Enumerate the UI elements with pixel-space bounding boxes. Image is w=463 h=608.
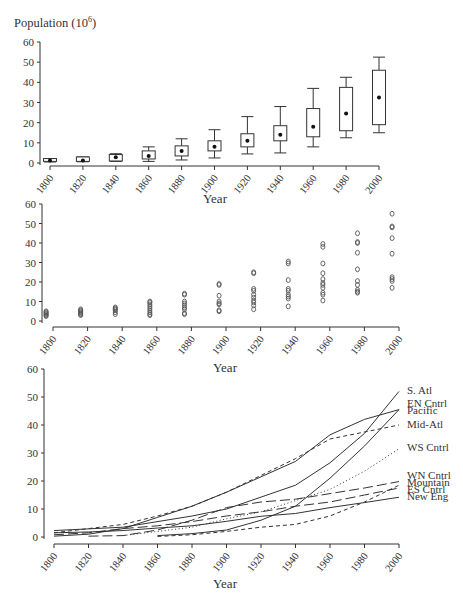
y-tick-label: 20 bbox=[27, 475, 39, 487]
scatter-point bbox=[321, 261, 325, 266]
y-tick-label: 0 bbox=[33, 531, 39, 543]
x-tick-label: 2000 bbox=[363, 172, 385, 195]
box-iqr bbox=[340, 87, 353, 130]
y-tick-label: 40 bbox=[25, 237, 37, 249]
mean-dot bbox=[278, 133, 282, 137]
y-tick-label: 50 bbox=[25, 218, 37, 230]
scatter-point bbox=[355, 267, 359, 272]
y-tick-label: 10 bbox=[27, 503, 39, 515]
y-tick-label: 10 bbox=[23, 137, 35, 149]
series-line-mountain bbox=[158, 485, 400, 536]
x-tick-label: 1860 bbox=[141, 333, 163, 356]
y-tick-label: 20 bbox=[23, 117, 35, 129]
x-tick-label: 1920 bbox=[245, 550, 267, 573]
y-tick-label: 30 bbox=[23, 97, 35, 109]
y-tick-label: 50 bbox=[23, 56, 35, 68]
x-tick-label: 1860 bbox=[133, 172, 155, 195]
scatter-point bbox=[321, 242, 325, 247]
series-line-s-atl bbox=[54, 391, 399, 530]
mean-dot bbox=[81, 158, 85, 162]
y-tick-label: 0 bbox=[31, 315, 37, 327]
series-line-ws-cntrl bbox=[123, 449, 399, 536]
box-1800 bbox=[44, 159, 57, 163]
scatter-point bbox=[321, 298, 325, 303]
x-tick-label: 1980 bbox=[330, 172, 352, 195]
x-tick-label: 1820 bbox=[72, 333, 94, 356]
x-tick-label: 2000 bbox=[383, 333, 405, 356]
scatter-point bbox=[321, 271, 325, 276]
figure-canvas: 0102030405060180018201840186018801900192… bbox=[0, 0, 463, 608]
series-line-mid-atl bbox=[54, 425, 399, 533]
box-2000 bbox=[373, 57, 386, 133]
scatter-point bbox=[355, 250, 359, 255]
y-tick-label: 30 bbox=[25, 257, 37, 269]
x-tick-label: 1980 bbox=[348, 333, 370, 356]
x-tick-label: 1980 bbox=[348, 550, 370, 573]
series-line-pacific bbox=[158, 410, 400, 536]
scatter-point bbox=[286, 304, 290, 309]
series-label: S. Atl bbox=[407, 384, 432, 396]
mean-dot bbox=[114, 155, 118, 159]
box-1900 bbox=[208, 130, 221, 158]
mean-dot bbox=[180, 149, 184, 153]
scatter-chart: 0102030405060180018201840186018801900192… bbox=[25, 198, 405, 375]
y-tick-label: 50 bbox=[27, 391, 39, 403]
box-1940 bbox=[274, 107, 287, 153]
y-tick-label: 40 bbox=[27, 419, 39, 431]
scatter-point bbox=[390, 236, 394, 241]
box-1980 bbox=[340, 77, 353, 138]
series-line-new-eng bbox=[54, 497, 399, 533]
x-tick-label: 1840 bbox=[100, 172, 122, 195]
y-tick-label: 30 bbox=[27, 447, 39, 459]
x-tick-label: 1880 bbox=[176, 550, 198, 573]
x-tick-label: 1800 bbox=[34, 172, 56, 195]
x-axis-label: Year bbox=[213, 576, 238, 591]
mean-dot bbox=[213, 145, 217, 149]
y-tick-label: 0 bbox=[29, 157, 35, 169]
line-chart: 0102030405060180018201840186018801900192… bbox=[27, 363, 451, 591]
x-tick-label: 1940 bbox=[279, 333, 301, 356]
box-1960 bbox=[307, 88, 320, 146]
series-line-wn-cntrl bbox=[89, 482, 400, 537]
x-tick-label: 1880 bbox=[166, 172, 188, 195]
mean-dot bbox=[48, 159, 52, 163]
x-tick-label: 1820 bbox=[67, 172, 89, 195]
y-tick-label: 20 bbox=[25, 276, 37, 288]
scatter-point bbox=[390, 251, 394, 256]
y-tick-label: 10 bbox=[25, 296, 37, 308]
boxplot-chart: 0102030405060180018201840186018801900192… bbox=[23, 36, 386, 206]
mean-dot bbox=[311, 125, 315, 129]
scatter-point bbox=[390, 285, 394, 290]
x-tick-label: 1900 bbox=[210, 333, 232, 356]
x-tick-label: 1920 bbox=[231, 172, 253, 195]
x-tick-label: 1820 bbox=[72, 550, 94, 573]
series-label: New Eng bbox=[407, 490, 449, 502]
series-line-en-cntrl bbox=[54, 410, 399, 537]
x-tick-label: 1900 bbox=[210, 550, 232, 573]
y-tick-label: 60 bbox=[27, 363, 39, 375]
box-1820 bbox=[76, 157, 89, 162]
x-axis-label: Year bbox=[213, 360, 238, 375]
series-label: Mid-Atl bbox=[407, 418, 443, 430]
mean-dot bbox=[377, 95, 381, 99]
box-1840 bbox=[109, 154, 122, 162]
mean-dot bbox=[344, 112, 348, 116]
x-tick-label: 1800 bbox=[38, 550, 60, 573]
x-tick-label: 2000 bbox=[383, 550, 405, 573]
box-1920 bbox=[241, 117, 254, 154]
scatter-point bbox=[286, 278, 290, 283]
scatter-point bbox=[355, 231, 359, 236]
scatter-point bbox=[217, 293, 221, 298]
scatter-point bbox=[390, 211, 394, 216]
series-label: WS Cntrl bbox=[407, 441, 449, 453]
x-tick-label: 1860 bbox=[141, 550, 163, 573]
x-tick-label: 1940 bbox=[264, 172, 286, 195]
x-axis-label: Year bbox=[203, 191, 228, 206]
y-tick-label: 40 bbox=[23, 76, 35, 88]
y-tick-label: 60 bbox=[25, 198, 37, 210]
box-1860 bbox=[142, 147, 155, 162]
series-label: Pacific bbox=[407, 404, 438, 416]
x-tick-label: 1960 bbox=[314, 333, 336, 356]
box-iqr bbox=[307, 109, 320, 137]
x-tick-label: 1840 bbox=[106, 333, 128, 356]
